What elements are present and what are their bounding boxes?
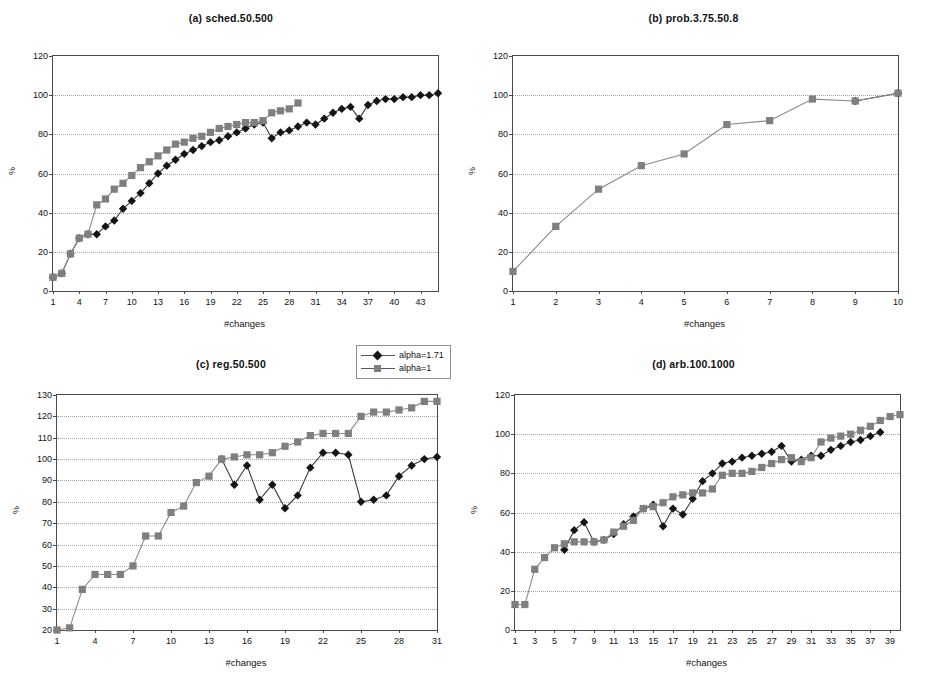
y-tick-label: 100 (493, 90, 513, 100)
data-point-marker (748, 468, 755, 475)
data-point-marker (561, 540, 568, 547)
data-point-marker (233, 128, 241, 136)
x-tick-label: 31 (432, 636, 442, 646)
data-point-marker (206, 138, 214, 146)
data-point-marker (425, 91, 433, 99)
data-point-marker (311, 120, 319, 128)
data-point-marker (738, 453, 746, 461)
plot-area-c: 2030405060708090100110120130147101316192… (56, 394, 438, 631)
data-point-marker (269, 449, 276, 456)
data-point-marker (381, 95, 389, 103)
x-tick-label: 3 (596, 297, 601, 307)
chart-a: 0204060801001201471013161922252831343740… (0, 0, 462, 342)
data-point-marker (659, 522, 667, 530)
data-point-marker (420, 455, 428, 463)
y-tick-label: 80 (498, 129, 513, 139)
data-point-marker (521, 601, 528, 608)
x-tick-mark (316, 291, 317, 294)
data-point-marker (180, 150, 188, 158)
data-point-marker (669, 493, 676, 500)
data-point-marker (320, 114, 328, 122)
data-point-marker (395, 406, 402, 413)
x-tick-mark (653, 630, 654, 633)
data-point-marker (102, 195, 109, 202)
x-tick-mark (770, 291, 771, 294)
data-point-marker (766, 117, 773, 124)
data-point-marker (357, 498, 365, 506)
x-tick-label: 28 (394, 636, 404, 646)
data-point-marker (681, 150, 688, 157)
x-tick-label: 13 (153, 297, 163, 307)
x-tick-label: 22 (232, 297, 242, 307)
x-tick-mark (752, 630, 753, 633)
series-layer (513, 56, 898, 291)
data-point-marker (679, 491, 686, 498)
panel-a: (a) sched.50.500 02040608010012014710131… (0, 0, 462, 342)
y-tick-label: 40 (500, 547, 515, 557)
x-tick-mark (323, 630, 324, 633)
data-point-marker (303, 118, 311, 126)
data-point-marker (231, 453, 238, 460)
data-point-marker (699, 489, 706, 496)
x-tick-label: 22 (318, 636, 328, 646)
data-point-marker (286, 105, 293, 112)
y-tick-label: 40 (498, 208, 513, 218)
data-point-marker (76, 235, 83, 242)
y-tick-label: 0 (43, 286, 53, 296)
series-line-alpha=1 (513, 93, 898, 271)
x-tick-label: 3 (532, 636, 537, 646)
x-tick-mark (289, 291, 290, 294)
data-point-marker (581, 538, 588, 545)
y-tick-label: 120 (493, 51, 513, 61)
data-point-marker (827, 446, 835, 454)
data-point-marker (128, 172, 135, 179)
x-tick-mark (95, 630, 96, 633)
series-layer (515, 395, 900, 630)
data-point-marker (758, 450, 766, 458)
data-point-marker (251, 119, 258, 126)
data-point-marker (205, 473, 212, 480)
y-tick-label: 70 (42, 518, 57, 528)
data-point-marker (531, 566, 538, 573)
data-point-marker (172, 141, 179, 148)
legend-square-icon (361, 363, 395, 374)
x-tick-label: 43 (415, 297, 425, 307)
y-tick-label: 60 (500, 508, 515, 518)
x-tick-mark (851, 630, 852, 633)
data-point-marker (877, 417, 884, 424)
y-tick-label: 0 (503, 286, 513, 296)
chart-c: 2030405060708090100110120130147101316192… (0, 342, 462, 684)
x-tick-label: 17 (668, 636, 678, 646)
x-tick-label: 16 (242, 636, 252, 646)
x-tick-label: 9 (591, 636, 596, 646)
data-point-marker (91, 571, 98, 578)
data-point-marker (373, 97, 381, 105)
data-point-marker (723, 121, 730, 128)
data-point-marker (817, 452, 825, 460)
x-axis-label: #changes (512, 318, 897, 329)
x-tick-label: 25 (747, 636, 757, 646)
data-point-marker (434, 89, 442, 97)
data-point-marker (894, 90, 901, 97)
x-tick-label: 2 (553, 297, 558, 307)
y-axis-label: % (469, 505, 479, 513)
data-point-marker (383, 408, 390, 415)
x-tick-mark (633, 630, 634, 633)
x-tick-label: 28 (284, 297, 294, 307)
x-tick-label: 10 (166, 636, 176, 646)
data-point-marker (857, 427, 864, 434)
data-point-marker (433, 453, 441, 461)
data-point-marker (294, 122, 302, 130)
y-tick-label: 120 (37, 411, 57, 421)
data-point-marker (669, 504, 677, 512)
data-point-marker (277, 107, 284, 114)
data-point-marker (728, 457, 736, 465)
data-point-marker (332, 430, 339, 437)
x-tick-mark (184, 291, 185, 294)
data-point-marker (119, 180, 126, 187)
x-tick-label: 7 (130, 636, 135, 646)
x-tick-label: 25 (258, 297, 268, 307)
y-tick-label: 20 (498, 247, 513, 257)
data-point-marker (104, 571, 111, 578)
x-tick-mark (898, 291, 899, 294)
